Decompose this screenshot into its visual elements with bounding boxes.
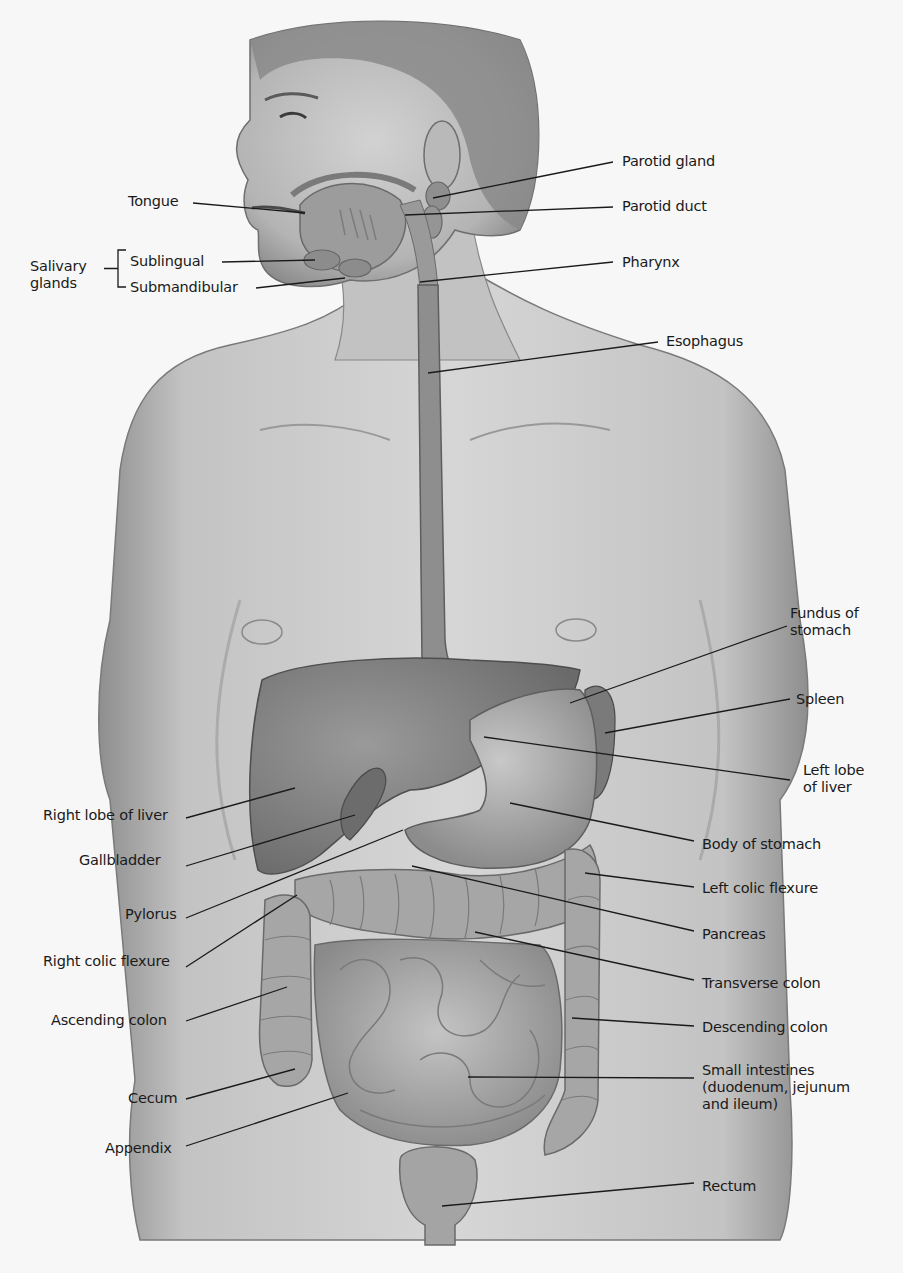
label-parotid-gland: Parotid gland (622, 153, 715, 170)
label-esophagus: Esophagus (666, 333, 743, 350)
label-pancreas: Pancreas (702, 926, 766, 943)
label-submandibular: Submandibular (130, 279, 238, 296)
label-right-colic-flexure: Right colic flexure (43, 953, 170, 970)
small-intestines (314, 939, 561, 1145)
label-fundus-of-stomach: Fundus of stomach (790, 605, 859, 639)
label-rectum: Rectum (702, 1178, 756, 1195)
label-body-of-stomach: Body of stomach (702, 836, 821, 853)
label-spleen: Spleen (796, 691, 844, 708)
label-transverse-colon: Transverse colon (702, 975, 821, 992)
label-parotid-duct: Parotid duct (622, 198, 707, 215)
label-salivary-glands: Salivary glands (30, 258, 87, 292)
label-left-colic-flexure: Left colic flexure (702, 880, 818, 897)
label-pylorus: Pylorus (125, 906, 177, 923)
label-appendix: Appendix (105, 1140, 172, 1157)
label-ascending-colon: Ascending colon (51, 1012, 167, 1029)
label-pharynx: Pharynx (622, 254, 680, 271)
label-cecum: Cecum (128, 1090, 177, 1107)
label-descending-colon: Descending colon (702, 1019, 828, 1036)
label-gallbladder: Gallbladder (79, 852, 160, 869)
label-small-intestines: Small intestines (duodenum, jejunum and … (702, 1062, 850, 1113)
label-right-lobe-of-liver: Right lobe of liver (43, 807, 168, 824)
label-tongue: Tongue (128, 193, 179, 210)
label-sublingual: Sublingual (130, 253, 204, 270)
label-left-lobe-of-liver: Left lobe of liver (803, 762, 864, 796)
salivary-glands-bracket (104, 250, 126, 287)
head (237, 21, 539, 290)
